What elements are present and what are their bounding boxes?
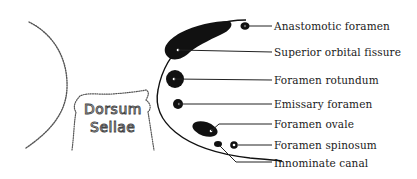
- label-foramen-ovale: Foramen ovale: [274, 118, 354, 130]
- label-foramen-spinosum: Foramen spinosum: [274, 139, 377, 151]
- skull-base-foramina-diagram: Dorsum Sellae Anastomotic foramen Superi…: [0, 0, 417, 179]
- label-anastomotic-foramen: Anastomotic foramen: [274, 20, 390, 32]
- dorsum-label: Dorsum: [84, 101, 142, 117]
- superior-orbital-fissure-shape: [165, 21, 232, 59]
- label-foramen-rotundum: Foramen rotundum: [274, 74, 379, 86]
- label-emissary-foramen: Emissary foramen: [274, 98, 372, 110]
- foramen-ovale-shape: [190, 118, 219, 139]
- sellae-label: Sellae: [90, 119, 135, 135]
- label-innominate-canal: Innominate canal: [274, 157, 368, 169]
- left-dotted-arc: [26, 22, 67, 148]
- label-superior-orbital-fissure: Superior orbital fissure: [274, 46, 401, 58]
